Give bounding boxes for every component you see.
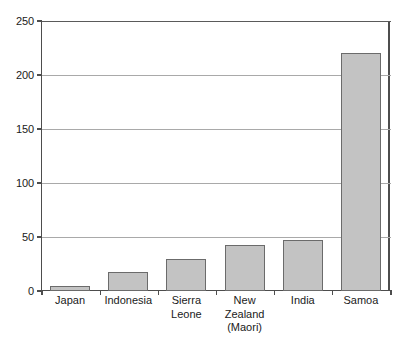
bar-chart: 050100150200250 JapanIndonesiaSierra Leo… (0, 0, 410, 346)
bar-india (283, 240, 323, 291)
bar-sierra-leone (166, 259, 206, 291)
bar-samoa (341, 53, 381, 291)
y-tick-label-50: 50 (22, 232, 34, 243)
bar-japan (50, 286, 90, 291)
bar-indonesia (108, 272, 148, 291)
y-tick-label-150: 150 (16, 124, 34, 135)
bar-new-zealand-maori (225, 245, 265, 291)
bar-series (41, 21, 390, 291)
x-axis-labels: JapanIndonesiaSierra LeoneNew Zealand (M… (41, 294, 390, 346)
y-tick-label-100: 100 (16, 178, 34, 189)
x-axis-label-samoa: Samoa (325, 294, 397, 308)
y-tick-label-200: 200 (16, 70, 34, 81)
y-tick-label-250: 250 (16, 16, 34, 27)
